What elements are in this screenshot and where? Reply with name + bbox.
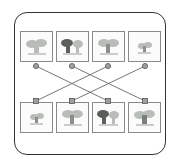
bottom-node-3 <box>106 99 111 104</box>
top-node-3 <box>105 63 110 68</box>
top-node-1 <box>33 63 38 68</box>
bottom-node-4 <box>143 99 148 104</box>
connector-lines <box>0 0 182 162</box>
top-node-2 <box>69 63 74 68</box>
bottom-node-2 <box>70 99 75 104</box>
top-node-4 <box>142 63 147 68</box>
bottom-node-1 <box>34 99 39 104</box>
